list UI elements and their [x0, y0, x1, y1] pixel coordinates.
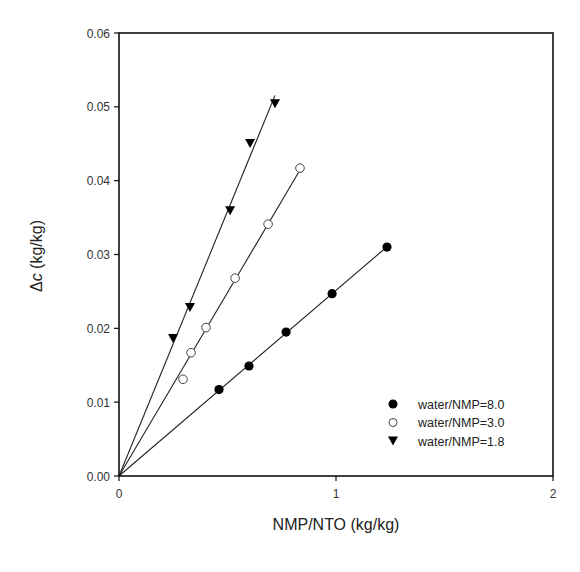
y-tick-label: 0.00 — [87, 470, 111, 484]
filled-circle-icon — [389, 400, 398, 409]
x-axis-title: NMP/NTO (kg/kg) — [273, 516, 400, 533]
y-axis-title-var: c — [28, 273, 45, 281]
y-axis-title-unit: (kg/kg) — [28, 220, 45, 273]
y-tick-label: 0.04 — [87, 174, 111, 188]
y-tick-label: 0.05 — [87, 100, 111, 114]
x-axis: 012 — [116, 476, 557, 501]
y-tick-label: 0.06 — [87, 27, 111, 41]
chart: 012 0.000.010.020.030.040.050.06 NMP/NTO… — [0, 0, 580, 572]
filled-circle-marker — [327, 289, 336, 298]
triangle-down-marker — [168, 334, 178, 343]
y-tick-label: 0.01 — [87, 396, 111, 410]
x-tick-label: 2 — [550, 487, 557, 501]
fit-line — [119, 95, 275, 476]
open-circle-marker — [202, 323, 211, 332]
y-tick-label: 0.03 — [87, 248, 111, 262]
open-circle-marker — [231, 274, 240, 283]
open-circle-marker — [187, 348, 196, 357]
filled-triangle-down-icon — [388, 437, 398, 446]
open-circle-icon — [389, 419, 397, 427]
filled-circle-marker — [244, 361, 253, 370]
y-axis-title-delta: Δ — [28, 281, 45, 292]
x-tick-label: 0 — [116, 487, 123, 501]
legend-item: water/NMP=8.0 — [389, 398, 505, 412]
open-circle-marker — [296, 164, 305, 173]
open-circle-marker — [264, 220, 273, 229]
y-tick-label: 0.02 — [87, 322, 111, 336]
filled-circle-marker — [382, 243, 391, 252]
fit-lines — [119, 95, 387, 476]
filled-circle-marker — [214, 385, 223, 394]
y-axis-title: Δc (kg/kg) — [28, 220, 45, 292]
legend-item: water/NMP=1.8 — [388, 435, 505, 449]
data-markers — [168, 99, 392, 394]
open-circle-marker — [179, 375, 188, 384]
legend-label: water/NMP=3.0 — [417, 416, 505, 430]
fit-line — [119, 170, 300, 476]
legend-label: water/NMP=8.0 — [417, 398, 505, 412]
fit-line — [119, 247, 387, 476]
legend-label: water/NMP=1.8 — [417, 435, 505, 449]
legend-item: water/NMP=3.0 — [389, 416, 505, 430]
y-axis: 0.000.010.020.030.040.050.06 — [87, 27, 119, 484]
legend: water/NMP=8.0 water/NMP=3.0 water/NMP=1.… — [388, 398, 505, 449]
x-tick-label: 1 — [333, 487, 340, 501]
filled-circle-marker — [281, 327, 290, 336]
